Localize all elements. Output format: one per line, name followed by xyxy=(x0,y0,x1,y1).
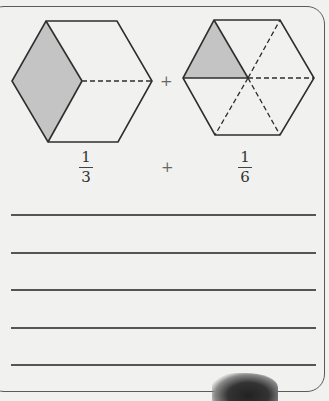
answer-line-4[interactable] xyxy=(11,327,316,329)
answer-line-1[interactable] xyxy=(11,214,316,216)
answer-line-5[interactable] xyxy=(11,364,316,366)
fraction-one-sixth: 1 6 xyxy=(235,150,255,185)
expression-plus-sign: + xyxy=(161,160,174,175)
answer-line-3[interactable] xyxy=(11,289,316,291)
denominator: 6 xyxy=(235,170,255,185)
ink-smudge xyxy=(212,373,278,401)
denominator: 3 xyxy=(76,170,96,185)
numerator: 1 xyxy=(76,150,96,166)
numerator: 1 xyxy=(235,150,255,166)
hexagon-thirds-figure xyxy=(12,21,152,142)
figures-plus-sign: + xyxy=(160,74,173,89)
hexagon-sixths-figure xyxy=(183,20,314,135)
answer-line-2[interactable] xyxy=(11,252,316,254)
fraction-one-third: 1 3 xyxy=(76,150,96,185)
